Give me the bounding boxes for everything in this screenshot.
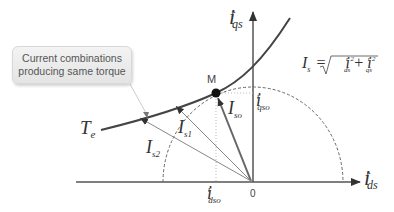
I-so-label: Iso <box>228 98 242 120</box>
I-s1-label: Is1 <box>178 117 192 139</box>
I-s2-label: Is2 <box>146 137 160 159</box>
diagram-canvas <box>0 0 394 212</box>
point-m <box>212 89 221 98</box>
y-axis-label: irqs <box>229 4 243 32</box>
callout-line-1: Current combinations <box>13 52 131 65</box>
callout-pointer <box>130 84 146 113</box>
current-magnitude-formula: Is = ir 2ds + ir 2qs <box>302 54 372 74</box>
origin-label: 0 <box>250 188 256 199</box>
torque-curve-label: Te <box>80 117 95 140</box>
callout-line-2: producing same torque <box>13 65 131 78</box>
i-qso-label: irqso <box>256 90 270 112</box>
i-dso-label: irdso <box>207 183 221 205</box>
x-axis-label: irds <box>364 165 378 193</box>
callout-same-torque: Current combinations producing same torq… <box>12 46 132 84</box>
point-m-label: M <box>207 73 216 85</box>
